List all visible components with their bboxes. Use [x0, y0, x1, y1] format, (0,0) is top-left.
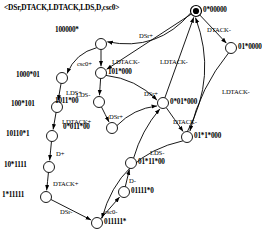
transition-edge — [53, 112, 56, 129]
state-node-label: 1011*00 — [55, 97, 78, 105]
state-node-label: 100000* — [55, 26, 79, 34]
state-node-label: 1000*01 — [16, 71, 40, 79]
transition-edge — [102, 141, 183, 219]
state-node[interactable] — [182, 132, 193, 143]
edge-label: D+ — [56, 150, 64, 157]
state-node[interactable] — [119, 187, 130, 198]
edge-label: DTACK- — [207, 26, 231, 33]
state-node[interactable] — [158, 98, 169, 109]
edge-label: DTACK- — [173, 118, 197, 125]
state-node-label: 10*1111 — [4, 161, 27, 169]
state-node[interactable] — [96, 68, 107, 79]
edge-label: csc0+ — [77, 60, 92, 67]
edge-label: D- — [129, 177, 136, 184]
state-node[interactable] — [96, 39, 107, 50]
state-node-label: 01*0000 — [238, 43, 262, 51]
state-node-label: 011111* — [104, 218, 126, 226]
edge-label: csc0- — [104, 208, 117, 215]
state-node-label: 0*00000 — [203, 6, 227, 14]
transition-edge — [99, 78, 100, 95]
state-node[interactable] — [41, 192, 52, 203]
state-node-label: 01*1*000 — [194, 132, 221, 140]
transition-edge — [50, 141, 52, 160]
edge-label: LDTACK- — [222, 88, 250, 95]
edge-label: DSr- — [60, 208, 72, 215]
state-node-label: 0*011*00 — [63, 123, 90, 131]
state-node-label: 1*11111 — [2, 191, 24, 199]
state-node[interactable] — [92, 218, 103, 229]
state-node[interactable] — [226, 43, 237, 54]
edge-label: DSr+ — [139, 32, 153, 39]
edge-label: DSr+ — [109, 113, 123, 120]
state-node[interactable] — [107, 123, 118, 134]
edge-label: LDS- — [150, 149, 164, 156]
state-node[interactable] — [44, 162, 55, 173]
diagram-graphics — [0, 0, 262, 238]
state-diagram-canvas: <DSr,DTACK,LDTACK,LDS,D,csc0> DTACK-LDTA… — [0, 0, 262, 238]
state-node[interactable] — [94, 97, 105, 108]
state-node-label: 101*000 — [108, 68, 132, 76]
edge-label: DTACK+ — [53, 180, 78, 187]
state-node[interactable] — [57, 73, 68, 84]
state-node-label: 0*01*000 — [170, 98, 197, 106]
transition-edge — [47, 172, 49, 190]
transition-edge — [187, 18, 204, 132]
edge-label: DSr+ — [144, 90, 158, 97]
state-node-label: 01*11*00 — [138, 158, 165, 166]
edge-label: LDTACK- — [160, 58, 188, 65]
state-node-label: 100*101 — [11, 100, 35, 108]
state-node[interactable] — [47, 131, 58, 142]
state-node-label: 01111*0 — [131, 187, 154, 195]
state-node-label: 10110*1 — [6, 130, 29, 138]
state-node[interactable] — [126, 158, 137, 169]
edge-label: LDTACK- — [112, 58, 140, 65]
transition-edge — [101, 107, 109, 122]
initial-state-marker — [193, 8, 199, 14]
transition-edge — [107, 13, 190, 44]
